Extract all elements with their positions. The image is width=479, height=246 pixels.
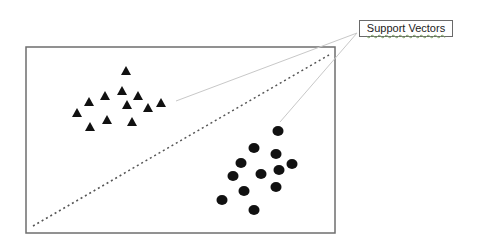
circle-point <box>273 126 284 136</box>
circle-point <box>271 182 282 192</box>
class-a-triangles <box>72 66 166 131</box>
class-b-circles <box>217 126 298 215</box>
circle-point <box>249 205 260 215</box>
triangle-point <box>84 97 94 106</box>
support-vectors-text: Support Vectors <box>367 22 445 34</box>
pointer-line <box>176 33 357 101</box>
circle-point <box>236 158 247 168</box>
triangle-point <box>85 122 95 131</box>
circle-point <box>228 171 239 181</box>
triangle-point <box>100 91 110 100</box>
circle-point <box>217 195 228 205</box>
triangle-point <box>127 117 137 126</box>
triangle-point <box>156 98 166 107</box>
triangle-point <box>121 66 131 75</box>
support-vectors-label: Support Vectors <box>359 20 453 37</box>
circle-point <box>249 143 260 153</box>
circle-point <box>287 159 298 169</box>
triangle-point <box>72 108 82 117</box>
circle-point <box>271 149 282 159</box>
circle-point <box>239 186 250 196</box>
triangle-point <box>117 86 127 95</box>
triangle-point <box>122 100 132 109</box>
separating-hyperplane <box>33 55 329 226</box>
triangle-point <box>133 91 143 100</box>
triangle-point <box>102 115 112 124</box>
circle-point <box>256 169 267 179</box>
triangle-point <box>143 103 153 112</box>
circle-point <box>274 165 285 175</box>
